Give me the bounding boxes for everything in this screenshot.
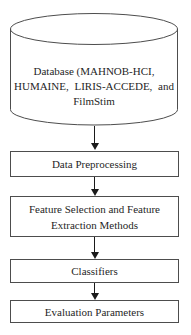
node-feature-selection-label-line2: Extraction Methods	[51, 217, 138, 233]
database-label-line1: Database (MAHNOB-HCI,	[34, 64, 155, 79]
node-classifiers: Classifiers	[10, 259, 179, 283]
arrow-stem	[94, 283, 95, 293]
arrow-stem	[94, 177, 95, 189]
flowchart: Database (MAHNOB-HCI, HUMAINE, LIRIS-ACC…	[0, 0, 191, 335]
node-feature-selection-extraction: Feature Selection and Feature Extraction…	[10, 196, 179, 237]
arrow-stem	[94, 126, 95, 143]
node-data-preprocessing: Data Preprocessing	[10, 151, 179, 177]
arrow-head	[91, 143, 99, 150]
arrow-stem	[94, 237, 95, 252]
arrow-preprocessing-to-feature-icon	[90, 177, 99, 196]
node-feature-selection-label-line1: Feature Selection and Feature	[29, 201, 160, 217]
arrow-head	[91, 189, 99, 196]
arrow-classifiers-to-evaluation-icon	[90, 283, 99, 300]
node-classifiers-label: Classifiers	[71, 263, 117, 279]
node-evaluation-parameters-label: Evaluation Parameters	[45, 304, 144, 320]
database-label-line3: FilmStim	[73, 94, 115, 109]
arrow-database-to-preprocessing-icon	[90, 126, 99, 150]
database-label: Database (MAHNOB-HCI, HUMAINE, LIRIS-ACC…	[12, 56, 176, 116]
database-label-line2: HUMAINE, LIRIS-ACCEDE, and	[14, 79, 174, 94]
arrow-feature-to-classifiers-icon	[90, 237, 99, 259]
arrow-head	[91, 293, 99, 300]
arrow-head	[91, 252, 99, 259]
node-data-preprocessing-label: Data Preprocessing	[52, 156, 137, 172]
database-node: Database (MAHNOB-HCI, HUMAINE, LIRIS-ACC…	[10, 13, 178, 126]
node-evaluation-parameters: Evaluation Parameters	[10, 300, 179, 323]
